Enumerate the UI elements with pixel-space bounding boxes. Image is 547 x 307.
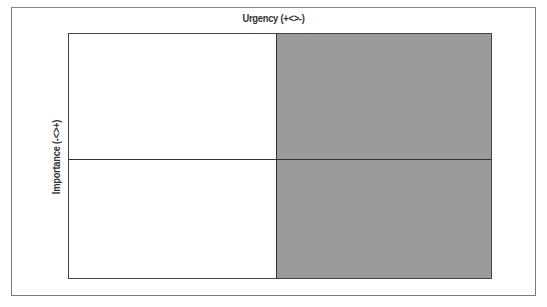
quadrant-grid <box>68 33 492 279</box>
quadrant-bottom-right <box>276 159 491 278</box>
vertical-divider <box>276 34 277 278</box>
quadrant-top-left <box>69 34 276 159</box>
horizontal-divider <box>69 159 491 160</box>
x-axis-label: Urgency (+<>-) <box>41 12 506 24</box>
quadrant-bottom-left <box>69 159 276 278</box>
quadrant-top-right <box>276 34 491 159</box>
y-axis-label: Importance (-<>+) <box>50 120 62 194</box>
